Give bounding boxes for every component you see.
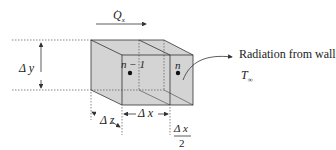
half-dx-denominator: 2 [179, 137, 185, 149]
t-infinity-label: T∞ [241, 68, 253, 84]
delta-z-label: Δ z [100, 113, 115, 128]
heat-flow-dot: · [116, 6, 119, 15]
delta-y-label: Δ y [19, 61, 34, 76]
delta-x-label: Δ x [138, 106, 153, 121]
node-n-minus-1-label: n − 1 [121, 58, 145, 70]
node-n-label: n [175, 59, 181, 71]
radiation-label: Radiation from wall [239, 47, 336, 62]
half-dx-numerator: Δ x [174, 122, 188, 134]
heat-flow-label: Qx [113, 8, 125, 24]
